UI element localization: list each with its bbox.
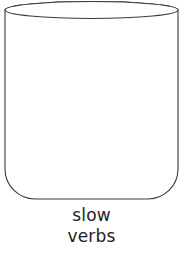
caption-line-1: slow: [0, 205, 183, 226]
caption-line-2: verbs: [0, 226, 183, 247]
cylindrical-container-drawing: [0, 0, 183, 205]
container-body-path: [5, 2, 178, 199]
figure-canvas: slow verbs: [0, 0, 183, 264]
caption: slow verbs: [0, 205, 183, 247]
container-opening-ellipse: [5, 2, 178, 19]
